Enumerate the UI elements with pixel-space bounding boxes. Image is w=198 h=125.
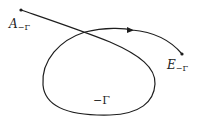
start-label: A−Γ <box>8 17 30 32</box>
contour-diagram: A−Γ E−Γ −Γ <box>0 0 198 125</box>
start-point <box>19 8 22 11</box>
end-point <box>180 52 183 55</box>
end-label: E−Γ <box>166 58 188 73</box>
arrow-head-icon <box>127 27 134 33</box>
loop-label: −Γ <box>93 94 110 107</box>
